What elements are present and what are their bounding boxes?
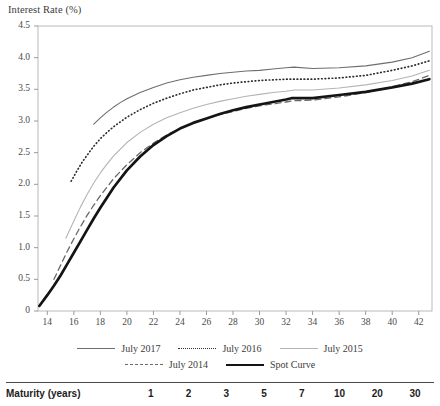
x-axis-tick-label: 22 — [141, 317, 165, 327]
x-axis-tick-label: 26 — [194, 317, 218, 327]
table-column-header: 5 — [245, 388, 283, 399]
line-chart-svg — [0, 0, 440, 330]
series-line-july-2015 — [66, 70, 429, 238]
x-axis-tick-label: 28 — [221, 317, 245, 327]
y-axis-tick-label: 3.5 — [2, 83, 30, 93]
y-axis-tick-label: 2.0 — [2, 178, 30, 188]
legend-item-july-2017[interactable]: July 2017 — [77, 343, 160, 354]
table-column-header: 10 — [321, 388, 359, 399]
series-line-july-2017 — [94, 51, 430, 124]
legend-line-swatch — [125, 359, 163, 369]
table-column-header: 20 — [359, 388, 397, 399]
x-axis-tick-label: 24 — [168, 317, 192, 327]
y-axis-tick-label: 3.0 — [2, 115, 30, 125]
table-header-row: Maturity (years) 12357102030 — [6, 383, 434, 399]
legend-item-label: July 2017 — [121, 343, 160, 354]
x-axis-tick-label: 14 — [35, 317, 59, 327]
legend-item-label: July 2015 — [324, 343, 363, 354]
y-axis-tick-label: 0.5 — [2, 273, 30, 283]
table-column-header: 3 — [208, 388, 246, 399]
plot-area: 4.54.03.53.02.52.01.51.00.50 14161820222… — [0, 0, 440, 330]
x-axis-tick-label: 16 — [62, 317, 86, 327]
chart-page: Interest Rate (%) 4.54.03.53.02.52.01.51… — [0, 0, 440, 406]
legend-item-july-2015[interactable]: July 2015 — [280, 343, 363, 354]
x-axis-tick-label: 30 — [248, 317, 272, 327]
y-axis-tick-label: 0 — [2, 305, 30, 315]
legend-item-july-2016[interactable]: July 2016 — [178, 343, 261, 354]
x-axis-tick-label: 32 — [274, 317, 298, 327]
chart-legend: July 2017July 2016July 2015July 2014Spot… — [0, 340, 440, 372]
series-line-spot-curve — [39, 79, 429, 306]
y-axis-tick-label: 1.0 — [2, 242, 30, 252]
x-axis-tick-label: 20 — [115, 317, 139, 327]
x-axis-tick-label: 18 — [88, 317, 112, 327]
legend-item-label: Spot Curve — [270, 359, 315, 370]
x-axis-tick-label: 36 — [327, 317, 351, 327]
x-axis-tick-label: 42 — [407, 317, 431, 327]
table-row-label: Maturity (years) — [6, 388, 132, 399]
x-axis-tick-label: 38 — [354, 317, 378, 327]
plot-frame — [38, 26, 432, 311]
legend-line-swatch — [77, 343, 115, 353]
series-line-july-2016 — [71, 61, 429, 181]
legend-item-july-2014[interactable]: July 2014 — [125, 359, 208, 370]
y-axis-tick-label: 1.5 — [2, 210, 30, 220]
table-column-header: 30 — [396, 388, 434, 399]
legend-item-label: July 2016 — [222, 343, 261, 354]
series-line-july-2014 — [54, 75, 429, 279]
legend-line-swatch — [178, 343, 216, 353]
legend-item-label: July 2014 — [169, 359, 208, 370]
maturity-table: Maturity (years) 12357102030 — [6, 382, 434, 399]
x-axis-tick-label: 34 — [301, 317, 325, 327]
legend-row: July 2017July 2016July 2015 — [0, 340, 440, 356]
table-column-header: 2 — [170, 388, 208, 399]
table-column-header: 1 — [132, 388, 170, 399]
y-axis-tick-label: 4.0 — [2, 52, 30, 62]
y-axis-tick-label: 4.5 — [2, 20, 30, 30]
y-axis-tick-label: 2.5 — [2, 147, 30, 157]
legend-line-swatch — [280, 343, 318, 353]
x-axis-tick-label: 40 — [380, 317, 404, 327]
table-column-header: 7 — [283, 388, 321, 399]
legend-item-spot-curve[interactable]: Spot Curve — [226, 359, 315, 370]
legend-line-swatch — [226, 359, 264, 369]
legend-row: July 2014Spot Curve — [0, 356, 440, 372]
